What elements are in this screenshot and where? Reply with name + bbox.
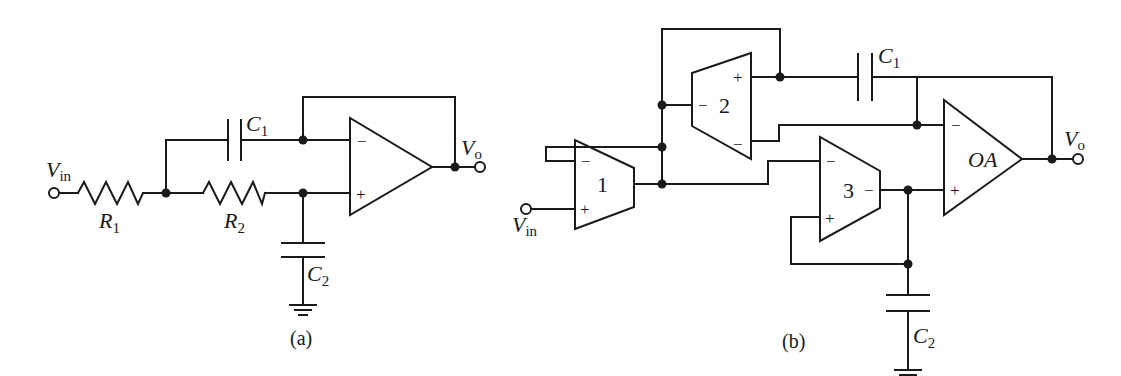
- output-terminal-b: [1073, 154, 1083, 164]
- svg-text:OA: OA: [968, 147, 998, 172]
- resistor-r1: [78, 182, 143, 204]
- vin-label-b: Vin: [512, 212, 538, 239]
- svg-text:+: +: [950, 181, 960, 200]
- ground-icon: [895, 370, 921, 375]
- svg-text:3: 3: [843, 178, 854, 203]
- c2b-label: C2: [913, 323, 935, 351]
- caption-b: (b): [782, 330, 805, 353]
- vin-label-a: Vin: [46, 157, 72, 184]
- svg-text:−: −: [581, 152, 591, 171]
- svg-text:+: +: [356, 185, 366, 204]
- svg-text:−: −: [951, 116, 961, 135]
- svg-text:+: +: [580, 200, 590, 219]
- svg-text:+: +: [825, 209, 835, 228]
- vo-label-b: Vo: [1064, 126, 1085, 153]
- r1-label: R1: [98, 208, 120, 236]
- svg-text:+: +: [733, 68, 743, 87]
- svg-text:−: −: [698, 96, 708, 115]
- c1-label: C1: [246, 111, 268, 139]
- r2-label: R2: [223, 208, 245, 236]
- input-terminal-a: [49, 188, 59, 198]
- vo-label-a: Vo: [461, 135, 482, 162]
- svg-text:−: −: [826, 152, 836, 171]
- caption-a: (a): [290, 327, 312, 350]
- panel-b: − + 1 − 2 + − − + 3 −: [512, 29, 1085, 375]
- svg-text:−: −: [864, 181, 874, 200]
- svg-text:2: 2: [719, 93, 730, 118]
- svg-text:1: 1: [597, 172, 608, 197]
- c1b-label: C1: [878, 43, 900, 71]
- svg-text:−: −: [733, 135, 743, 154]
- output-terminal-a: [475, 162, 485, 172]
- resistor-r2: [203, 182, 265, 204]
- svg-text:−: −: [357, 132, 367, 151]
- circuit-figure: − + Vin Vo R1 R2 C1 C2 (a) − + 1: [0, 0, 1121, 376]
- panel-a: − + Vin Vo R1 R2 C1 C2 (a): [46, 97, 485, 350]
- c2-label: C2: [307, 261, 329, 289]
- ground-icon: [290, 305, 316, 315]
